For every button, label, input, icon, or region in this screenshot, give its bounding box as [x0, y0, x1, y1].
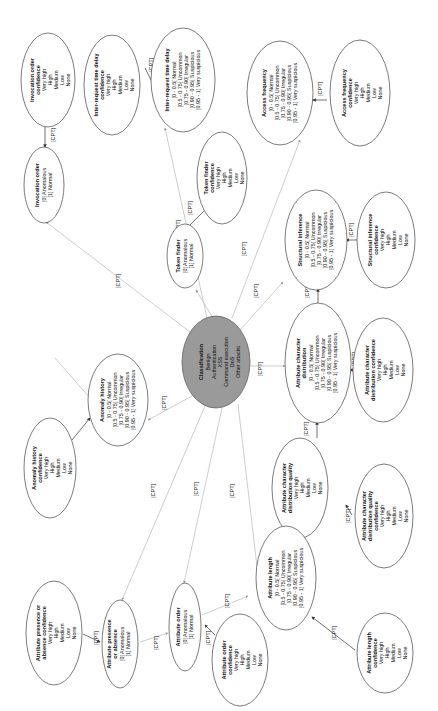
svg-text:Attribute length: Attribute length: [267, 557, 273, 599]
edge-central-structural: [CPT]: [240, 282, 283, 330]
svg-text:Inter-request time delay: Inter-request time delay: [164, 48, 170, 112]
svg-text:Anomaly history: Anomaly history: [99, 377, 105, 422]
node-attribute-length: Attribute length [0 - 0.5[ Normal [0.5 -…: [256, 526, 316, 630]
svg-text:[CPT]: [CPT]: [93, 630, 99, 645]
svg-text:[0.95 - 1] Very suspicious: [0.95 - 1] Very suspicious: [332, 333, 338, 394]
edge-central-attr-order: [CPT]: [184, 408, 222, 583]
edge-central-attr-length: [CPT]: [229, 404, 258, 575]
svg-text:[CPT]: [CPT]: [150, 483, 156, 498]
svg-text:[CPT]: [CPT]: [205, 630, 211, 645]
svg-text:Structural inference: Structural inference: [297, 214, 303, 267]
edge-attr-order-attr-length: [CPT]: [202, 593, 248, 615]
node-attribute-character-distribution-quality: Attribute character distribution quality…: [272, 438, 328, 538]
svg-text:[CPT]: [CPT]: [161, 395, 167, 410]
edge-structural-conf: [CPT]: [346, 222, 358, 240]
node-token-finder-confidence: Token finder confidence Very high High M…: [197, 132, 247, 224]
svg-text:[0.95 - 1] Very suspicious: [0.95 - 1] Very suspicious: [195, 50, 201, 111]
svg-text:None: None: [403, 510, 409, 523]
node-attribute-character-distribution-confidence: Attribute character distribution confide…: [353, 318, 413, 422]
svg-text:distribution: distribution: [301, 347, 307, 378]
node-access-frequency: Access frequency [0 - 0.5[ Normal [0.5 -…: [247, 41, 313, 145]
svg-text:Classification: Classification: [198, 343, 204, 380]
node-classification: Classification Benign Authentication XSS…: [182, 316, 250, 408]
edge-central-attr-char-dist: [CPT]: [250, 361, 285, 376]
svg-text:[CPT]: [CPT]: [331, 625, 337, 640]
node-invocation-order: Invocation order [0] Anomalous [1] Norma…: [24, 147, 64, 223]
edge-external-anomaly-history: [55, 358, 90, 398]
node-attribute-order-confidence: Attribute order confidence Very high Hig…: [212, 614, 268, 706]
svg-text:None: None: [129, 79, 135, 92]
node-attribute-character-distribution-quality-confidence: Attribute character distribution quality…: [355, 464, 413, 568]
svg-text:Token finder: Token finder: [175, 239, 181, 273]
svg-text:Access frequency: Access frequency: [261, 68, 267, 117]
svg-text:[0.95 - 1] Very suspicious: [0.95 - 1] Very suspicious: [328, 210, 334, 271]
svg-text:None: None: [71, 627, 77, 640]
svg-text:[1] Normal: [1] Normal: [188, 615, 194, 640]
svg-text:None: None: [402, 647, 408, 660]
node-inter-request-confidence: Inter-request time delay confidence Very…: [84, 35, 140, 135]
node-attribute-order: Attribute order [0] Anomalous [1] Normal: [169, 583, 201, 671]
node-token-finder: Token finder [0] Anomalous [1] Normal: [167, 224, 203, 288]
node-access-frequency-confidence: Access frequency confidence Very high Hi…: [330, 40, 390, 146]
svg-text:[CPT]: [CPT]: [241, 241, 247, 256]
edge-central-invocation-order: [CPT]: [46, 222, 190, 332]
svg-text:[CPT]: [CPT]: [303, 421, 309, 436]
svg-text:Other attacks: Other attacks: [235, 346, 241, 378]
edge-presence-conf: [CPT]: [83, 630, 100, 645]
svg-text:[CPT]: [CPT]: [345, 508, 351, 523]
node-attribute-presence-confidence: Attribute presence or absence confidence…: [26, 581, 82, 685]
edge-access-frequency-conf: [CPT]: [313, 81, 327, 100]
svg-text:None: None: [377, 87, 383, 100]
node-invocation-order-confidence: Invocation order confidence Very high Hi…: [21, 33, 75, 127]
svg-text:None: None: [257, 654, 263, 667]
svg-text:None: None: [239, 172, 245, 185]
svg-text:[CPT]: [CPT]: [115, 273, 121, 288]
svg-text:[CPT]: [CPT]: [153, 635, 159, 650]
node-attribute-presence-or-absence: Attribute presence or absence [0] Anomal…: [102, 600, 138, 688]
svg-text:[1] Normal: [1] Normal: [47, 173, 53, 198]
edge-length-conf: [CPT]: [312, 617, 355, 650]
svg-text:[CPT]: [CPT]: [257, 361, 263, 376]
edge-central-token-finder: [196, 290, 213, 318]
svg-text:[CPT]: [CPT]: [224, 593, 230, 608]
edge-quality-char-dist: [CPT]: [303, 421, 317, 438]
svg-text:None: None: [403, 234, 409, 247]
svg-text:[0.95 - 1] Very suspicious: [0.95 - 1] Very suspicious: [292, 63, 298, 124]
bayesian-network-diagram: [CPT] [CPT] [CPT] [CPT] [CPT] [CPT] [CPT…: [0, 0, 438, 711]
svg-text:None: None: [67, 462, 73, 475]
svg-text:Invocation order: Invocation order: [34, 162, 40, 207]
svg-text:[0.95 - 1] Very suspicious: [0.95 - 1] Very suspicious: [130, 370, 136, 431]
svg-text:None: None: [400, 364, 406, 377]
svg-text:[CPT]: [CPT]: [253, 283, 259, 298]
node-inter-request-time-delay: Inter-request time delay [0 - 0.5[ Norma…: [151, 28, 215, 132]
svg-text:[CPT]: [CPT]: [193, 481, 199, 496]
node-anomaly-history: Anomaly history [0 - 0.5[ Normal [0.5 - …: [88, 354, 148, 446]
svg-text:[CPT]: [CPT]: [317, 81, 323, 96]
edge-presence-attr-order: [CPT]: [140, 633, 168, 650]
edge-quality-conf: [CPT]: [345, 505, 352, 523]
svg-text:[CPT]: [CPT]: [50, 127, 56, 142]
svg-text:None: None: [65, 74, 71, 87]
node-structural-inference-confidence: Structural inference confidence Very hig…: [357, 192, 415, 288]
svg-text:[0.95 - 1] Very suspicious: [0.95 - 1] Very suspicious: [298, 548, 304, 609]
node-attribute-length-confidence: Attribute length confidence Very high Hi…: [357, 613, 413, 693]
edge-central-anomaly-history: [CPT]: [148, 395, 192, 420]
node-anomaly-history-confidence: Anomaly history confidence Very high Hig…: [24, 418, 76, 518]
edge-anomaly-conf: [72, 418, 90, 440]
svg-text:None: None: [317, 482, 323, 495]
node-attribute-character-distribution: Attribute character distribution [0 - 0.…: [285, 303, 351, 423]
svg-text:[CPT]: [CPT]: [187, 200, 193, 215]
node-structural-inference: Structural inference [0 - 0.5[ Normal [0…: [285, 190, 347, 290]
svg-text:Attribute order: Attribute order: [175, 607, 181, 647]
svg-text:[CPT]: [CPT]: [348, 222, 354, 237]
svg-text:[CPT]: [CPT]: [229, 483, 235, 498]
svg-text:[1] Normal: [1] Normal: [188, 244, 194, 269]
svg-text:[1] Normal: [1] Normal: [125, 632, 131, 657]
edge-invocation-conf: [CPT]: [45, 127, 56, 147]
edge-attr-order-conf: [CPT]: [205, 625, 215, 645]
svg-text:or absence: or absence: [112, 629, 118, 659]
